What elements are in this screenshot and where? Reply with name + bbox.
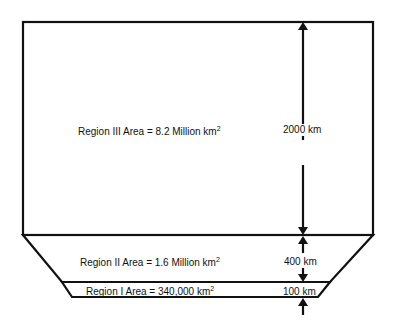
region-2-thickness: 400 km — [283, 256, 318, 268]
region-3-label: Region III Area = 8.2 Million km2 — [78, 125, 221, 137]
dimension-arrows — [298, 22, 308, 315]
region-3-thickness: 2000 km — [282, 124, 322, 136]
region-1-thickness: 100 km — [282, 286, 317, 298]
region-1-label: Region I Area = 340,000 km2 — [86, 285, 214, 297]
region-2-label: Region II Area = 1.6 Million km2 — [80, 256, 220, 268]
diagram-canvas — [0, 0, 394, 333]
